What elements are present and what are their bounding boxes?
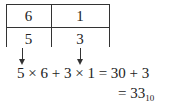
equation-line-1: 5 × 6 + 3 × 1 = 30 + 3 xyxy=(17,66,149,81)
table-right-border xyxy=(109,4,110,47)
table-top-border xyxy=(6,4,110,5)
base-subscript: 10 xyxy=(145,93,154,103)
place-value-right: 1 xyxy=(51,9,109,24)
digit-right: 3 xyxy=(51,32,109,47)
place-value-left: 6 xyxy=(6,9,51,24)
table-row-divider xyxy=(6,27,110,28)
equation-line-2: = 3310 xyxy=(118,86,154,105)
equation-result: = 33 xyxy=(118,85,145,101)
digit-left: 5 xyxy=(6,32,51,47)
